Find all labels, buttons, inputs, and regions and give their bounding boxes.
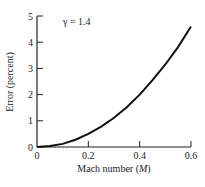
y-tick-label: 3 (28, 63, 33, 74)
y-tick-label: 5 (28, 11, 33, 22)
axes (37, 16, 191, 147)
x-axis-label-prefix: Mach number ( (77, 163, 139, 175)
y-tick-label: 0 (28, 142, 33, 153)
chart-svg: 012345 00.20.40.6 γ = 1.4 Error (percent… (0, 0, 205, 187)
y-tick-label: 4 (28, 37, 33, 48)
gamma-annotation: γ = 1.4 (62, 16, 91, 27)
x-axis-label-suffix: ) (147, 163, 150, 175)
x-axis-label: Mach number (M) (77, 163, 150, 175)
x-tick-label: 0.6 (185, 150, 198, 161)
y-ticks: 012345 (28, 11, 43, 153)
y-tick-label: 2 (28, 89, 33, 100)
y-axis-label: Error (percent) (4, 52, 16, 112)
chart: 012345 00.20.40.6 γ = 1.4 Error (percent… (0, 0, 205, 187)
x-tick-label: 0 (35, 150, 40, 161)
x-tick-label: 0.2 (82, 150, 95, 161)
error-curve (37, 27, 191, 148)
x-tick-label: 0.4 (133, 150, 146, 161)
y-tick-label: 1 (28, 115, 33, 126)
